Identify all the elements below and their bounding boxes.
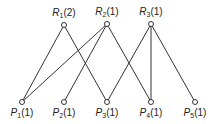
node-p2	[62, 100, 67, 105]
label-p1: P1(1)	[11, 108, 34, 119]
node-p1	[20, 100, 25, 105]
node-r1	[62, 23, 67, 28]
label-r1: R1(2)	[52, 8, 75, 19]
label-p3: P3(1)	[96, 108, 119, 119]
edge-r3-p5	[151, 24, 195, 102]
label-p2: P2(1)	[53, 108, 76, 119]
node-p5	[193, 100, 198, 105]
nodes	[20, 22, 198, 105]
node-p4	[149, 100, 154, 105]
node-p3	[105, 100, 110, 105]
node-r2	[105, 22, 110, 27]
edge-r1-p1	[22, 25, 64, 102]
label-p5: P5(1)	[184, 108, 207, 119]
label-r3: R3(1)	[139, 7, 162, 18]
bipartite-graph	[0, 0, 218, 124]
edges	[22, 24, 195, 102]
label-p4: P4(1)	[140, 108, 163, 119]
edge-r2-p1	[22, 24, 107, 102]
node-r3	[149, 22, 154, 27]
label-r2: R2(1)	[95, 7, 118, 18]
